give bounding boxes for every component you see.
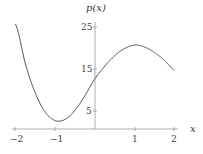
plot-area [0, 0, 203, 154]
chart: p(x) x 25 15 5 −2 −1 1 2 [0, 0, 203, 154]
y-tick-25: 25 [81, 22, 92, 32]
x-tick-2: 2 [171, 134, 177, 144]
x-tick-neg2: −2 [10, 134, 23, 144]
y-tick-5: 5 [86, 106, 92, 116]
x-tick-1: 1 [132, 134, 138, 144]
x-axis-label: x [190, 123, 196, 134]
y-tick-15: 15 [81, 64, 92, 74]
y-axis-label: p(x) [86, 2, 106, 13]
x-tick-neg1: −1 [50, 134, 63, 144]
